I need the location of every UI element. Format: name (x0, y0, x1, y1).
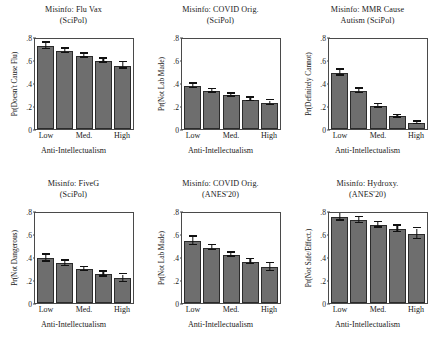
bar-slot (95, 213, 112, 303)
error-bar-cap-top (99, 57, 107, 58)
y-tick-label: 0 (28, 126, 32, 135)
error-bar-cap-top (246, 258, 254, 259)
x-axis-ticks: LowMed.High (181, 131, 281, 141)
panel-title-line-2: (SciPol) (147, 15, 294, 26)
plot-area-wrapper (34, 38, 134, 130)
x-tick-label: Low (186, 305, 201, 314)
bar-slot (408, 213, 425, 303)
error-bar-cap-top (266, 99, 274, 100)
bar-slot (408, 39, 425, 129)
bar-slot (261, 213, 278, 303)
panel-title-line-1: Misinfo: FiveG (0, 178, 147, 189)
y-tick-label: .4 (173, 80, 179, 89)
bar (37, 46, 54, 129)
plot-area (328, 212, 428, 304)
error-bar-cap-bottom (80, 270, 88, 271)
error-bar-cap-top (393, 224, 401, 225)
bar (223, 255, 240, 303)
x-axis-label: Anti-Intellectualism (147, 320, 294, 329)
chart-panel-1: Misinfo: Flu Vax(SciPol)Pr(Doesn't Cause… (0, 0, 147, 174)
y-tick-label: 0 (175, 300, 179, 309)
bar (331, 73, 348, 129)
bar (370, 106, 387, 129)
bar-slot (184, 39, 201, 129)
panel-title: Misinfo: Flu Vax(SciPol) (0, 4, 147, 26)
chart-panel-5: Misinfo: COVID Orig.(ANES'20)Pr(Not Lab … (147, 174, 294, 348)
plot-area (34, 212, 134, 304)
plot-area (181, 212, 281, 304)
bar (184, 86, 201, 129)
x-tick-label: Low (39, 305, 54, 314)
plot-area-wrapper (328, 212, 428, 304)
error-bar-cap-bottom (393, 231, 401, 232)
error-bar-cap-bottom (374, 226, 382, 227)
x-tick-label: Low (333, 305, 348, 314)
error-bar-cap-bottom (80, 56, 88, 57)
bar (203, 248, 220, 303)
error-bar-cap-top (189, 82, 197, 83)
error-bar-cap-top (355, 87, 363, 88)
error-bar-cap-top (413, 120, 421, 121)
bar-slot (370, 213, 387, 303)
bar-slot (114, 213, 131, 303)
error-bar-cap-bottom (246, 100, 254, 101)
y-tick-label: 0 (175, 126, 179, 135)
x-axis-ticks: LowMed.High (181, 305, 281, 315)
error-bar-cap-bottom (393, 116, 401, 117)
x-tick-label: High (114, 131, 130, 140)
bar (95, 274, 112, 303)
error-bar-cap-top (119, 273, 127, 274)
bar-slot (389, 39, 406, 129)
bar (389, 116, 406, 129)
error-bar-cap-top (393, 114, 401, 115)
y-tick-label: .4 (173, 254, 179, 263)
y-axis: 0.2.4.6.8 (20, 212, 34, 304)
y-tick-label: .6 (173, 231, 179, 240)
y-tick-label: .8 (173, 208, 179, 217)
panel-title: Misinfo: Hydroxy.(ANES'20) (294, 178, 441, 200)
misinformation-panel-figure: Misinfo: Flu Vax(SciPol)Pr(Doesn't Cause… (0, 0, 441, 348)
bar-slot (261, 39, 278, 129)
bar-slot (203, 213, 220, 303)
panel-title-line-1: Misinfo: COVID Orig. (147, 178, 294, 189)
plot-area-wrapper (34, 212, 134, 304)
x-tick-label: High (114, 305, 130, 314)
error-bar-cap-bottom (119, 67, 127, 68)
error-bar-cap-bottom (99, 275, 107, 276)
x-tick-label: Low (39, 131, 54, 140)
y-tick-label: .8 (320, 34, 326, 43)
x-axis-label: Anti-Intellectualism (0, 320, 147, 329)
error-bar-cap-bottom (99, 61, 107, 62)
y-tick-label: .8 (26, 34, 32, 43)
y-tick-label: 0 (322, 300, 326, 309)
error-bar-cap-top (42, 253, 50, 254)
bar-slot (223, 213, 240, 303)
plot-area-wrapper (181, 38, 281, 130)
y-tick-label: .6 (320, 57, 326, 66)
panel-title-line-2: (ANES'20) (147, 189, 294, 200)
error-bar-cap-top (227, 251, 235, 252)
bar-slot (56, 213, 73, 303)
error-bar-cap-bottom (227, 255, 235, 256)
plot-area-wrapper (181, 212, 281, 304)
x-tick-label: Med. (370, 305, 387, 314)
bar (389, 229, 406, 303)
bar (242, 262, 259, 303)
x-tick-label: Med. (76, 131, 93, 140)
error-bar-cap-top (227, 92, 235, 93)
bar (350, 91, 367, 129)
error-bar-cap-bottom (227, 95, 235, 96)
bar-slot (184, 213, 201, 303)
panel-title: Misinfo: COVID Orig.(ANES'20) (147, 178, 294, 200)
bar-slot (37, 213, 54, 303)
chart-panel-6: Misinfo: Hydroxy.(ANES'20)Pr(Not Safe/Ef… (294, 174, 441, 348)
error-bar-cap-top (266, 262, 274, 263)
bar (350, 220, 367, 303)
bar (408, 234, 425, 303)
bar-slot (37, 39, 54, 129)
x-axis-ticks: LowMed.High (328, 305, 428, 315)
error-bar-cap-bottom (336, 74, 344, 75)
x-tick-label: Med. (76, 305, 93, 314)
y-axis: 0.2.4.6.8 (314, 212, 328, 304)
panel-title-line-2: (ANES'20) (294, 189, 441, 200)
